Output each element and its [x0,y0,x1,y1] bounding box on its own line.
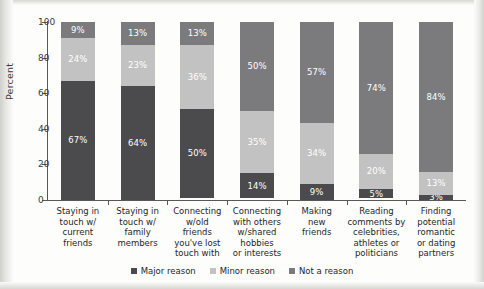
x-axis-label-line: touch w/ [107,217,169,228]
bar-6[interactable]: 74%20%5% [359,22,393,200]
bar-segment: 50% [180,109,214,198]
bar-segment-value: 67% [68,136,87,145]
x-axis-label-line: or dating [405,238,467,249]
x-axis-label-line: romantic [405,227,467,238]
x-axis-label-3: Connectingw/oldfriendsyou've losttouch w… [166,206,228,259]
x-axis-label-line: current [47,227,109,238]
bar-segment: 14% [240,173,274,198]
x-axis-label-line: partners [405,248,467,259]
bar-segment: 13% [121,22,155,45]
bar-segment-value: 74% [367,84,386,93]
bar-segment-value: 14% [247,182,266,191]
bar-segment: 34% [300,123,334,184]
bar-segment: 9% [61,22,95,38]
x-axis-tick [167,200,168,205]
x-axis-label-line: Staying in [107,206,169,217]
x-axis-label-6: Readingcomments bycelebrities,athletes o… [345,206,407,259]
x-axis-label-1: Staying intouch w/currentfriends [47,206,109,248]
bar-segment-value: 35% [247,138,266,147]
bar-segment-value: 9% [71,26,85,35]
x-axis-line [47,200,466,201]
bar-segment: 84% [419,22,453,172]
x-axis-label-line: celebrities, [345,227,407,238]
x-axis-label-line: potential [405,217,467,228]
bar-segment-value: 13% [427,179,446,188]
legend-item-2[interactable]: Minor reason [210,266,275,276]
bar-segment-value: 5% [370,190,384,199]
x-axis-tick [108,200,109,205]
bar-segment: 24% [61,38,95,81]
legend-label: Minor reason [220,266,275,276]
bar-segment-value: 13% [188,29,207,38]
plot-area: 9%24%67%13%23%64%13%36%50%50%35%14%57%34… [48,22,466,200]
bar-4[interactable]: 50%35%14% [240,22,274,200]
bar-segment-value: 36% [188,73,207,82]
bar-segment: 50% [240,22,274,111]
x-axis-label-line: Staying in [47,206,109,217]
x-axis-tick [347,200,348,205]
x-axis-label-line: friends [286,227,348,238]
x-axis-label-line: or interests [226,248,288,259]
x-axis-label-line: friends [166,227,228,238]
bar-segment-value: 13% [128,29,147,38]
x-axis-label-line: with others [226,217,288,228]
x-axis-label-line: new [286,217,348,228]
x-axis-label-line: comments by [345,217,407,228]
x-axis-label-line: Making [286,206,348,217]
x-axis-label-2: Staying intouch w/familymembers [107,206,169,248]
bar-segment-value: 24% [68,55,87,64]
x-axis-label-line: family [107,227,169,238]
bar-segment-value: 50% [247,62,266,71]
x-axis-label-line: Connecting [226,206,288,217]
bar-2[interactable]: 13%23%64% [121,22,155,200]
bar-7[interactable]: 84%13%3% [419,22,453,200]
legend-swatch-icon [289,268,295,274]
legend-label: Not a reason [299,266,353,276]
bar-segment: 13% [180,22,214,45]
y-axis-title: Percent [4,63,15,100]
x-axis-label-line: friends [47,238,109,249]
legend-item-3[interactable]: Not a reason [289,266,353,276]
legend-label: Major reason [141,266,196,276]
x-axis-label-line: w/old [166,217,228,228]
x-axis-tick [287,200,288,205]
bar-segment-value: 50% [188,149,207,158]
x-axis-label-7: Findingpotentialromanticor datingpartner… [405,206,467,259]
bar-segment-value: 34% [307,149,326,158]
x-axis-label-line: hobbies [226,238,288,249]
x-axis-label-line: w/shared [226,227,288,238]
bar-segment: 9% [300,184,334,200]
bar-segment-value: 3% [429,195,443,200]
legend-swatch-icon [210,268,216,274]
x-axis-label-line: members [107,238,169,249]
stacked-bar-chart: Percent 020406080100 9%24%67%13%23%64%13… [0,0,484,289]
x-axis-label-line: politicians [345,248,407,259]
bar-segment: 57% [300,22,334,123]
bar-segment-value: 9% [310,188,324,197]
bar-segment: 35% [240,111,274,173]
bar-segment: 64% [121,86,155,200]
bar-segment-value: 84% [427,93,446,102]
x-axis-label-4: Connectingwith othersw/sharedhobbiesor i… [226,206,288,259]
x-axis-label-line: Reading [345,206,407,217]
bar-1[interactable]: 9%24%67% [61,22,95,200]
x-axis-label-line: you've lost [166,238,228,249]
x-axis-tick [406,200,407,205]
legend-swatch-icon [131,268,137,274]
bar-segment: 36% [180,45,214,109]
bar-segment: 23% [121,45,155,86]
bar-segment: 74% [359,22,393,154]
x-axis-tick [227,200,228,205]
legend-item-1[interactable]: Major reason [131,266,196,276]
bar-segment-value: 20% [367,167,386,176]
bar-segment: 20% [359,154,393,190]
bar-segment: 5% [359,189,393,198]
bar-3[interactable]: 13%36%50% [180,22,214,200]
bar-segment: 3% [419,195,453,200]
x-axis-label-5: Makingnewfriends [286,206,348,238]
bar-segment-value: 57% [307,68,326,77]
chart-legend: Major reasonMinor reasonNot a reason [0,266,484,276]
bar-5[interactable]: 57%34%9% [300,22,334,200]
bar-segment-value: 64% [128,139,147,148]
x-axis-label-line: Connecting [166,206,228,217]
